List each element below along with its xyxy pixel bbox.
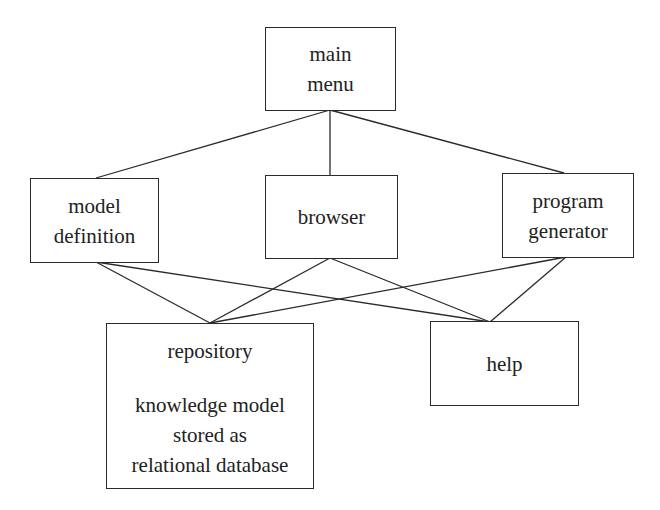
node-help-label: help [486,349,522,379]
node-browser: browser [265,175,398,259]
edge-model-definition-help [96,262,490,322]
edge-main-menu-model-definition [96,110,330,178]
edge-main-menu-program-generator [330,110,564,173]
node-repository: repository knowledge model stored as rel… [106,323,314,489]
node-model-definition-line-1: model [68,191,121,221]
node-repository-line-2: stored as [173,420,247,450]
node-main-menu: main menu [265,27,396,111]
edge-program-generator-help [490,257,566,322]
node-model-definition: model definition [30,178,159,263]
node-program-generator: program generator [502,173,634,258]
node-main-menu-line-1: main [310,39,352,69]
node-program-generator-line-2: generator [528,216,607,246]
node-repository-line-3: relational database [132,450,289,480]
edge-program-generator-repository [210,257,566,323]
edge-browser-help [330,258,490,322]
node-program-generator-line-1: program [532,186,603,216]
node-repository-line-1: knowledge model [135,390,285,420]
node-repository-title: repository [167,336,252,366]
node-help: help [430,321,579,406]
node-browser-label: browser [298,202,366,232]
edge-browser-repository [210,258,330,323]
node-main-menu-line-2: menu [307,69,354,99]
node-model-definition-line-2: definition [54,221,136,251]
